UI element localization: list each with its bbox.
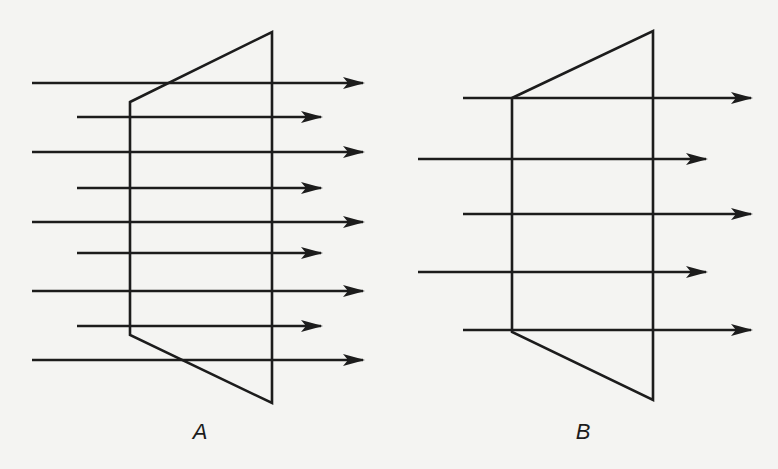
panel-b-diagram (418, 31, 751, 400)
panel-a-label: A (193, 419, 208, 445)
panel-b-label: B (576, 419, 591, 445)
prism-outline-b (512, 31, 653, 400)
prism-outline-a (130, 32, 272, 403)
diagram-canvas (0, 0, 778, 469)
panel-a-diagram (32, 32, 363, 403)
